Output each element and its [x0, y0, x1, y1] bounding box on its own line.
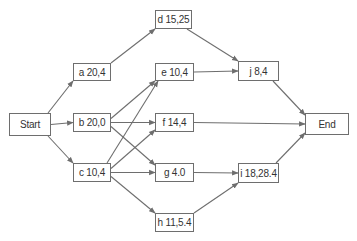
- network-diagram: Start a 20,4 b 20,0 c 10,4 d 15,25 e 10,…: [0, 0, 357, 241]
- node-c: c 10,4: [73, 163, 111, 182]
- node-label: i 18,28.4: [240, 168, 277, 179]
- node-label: j 8,4: [250, 66, 268, 77]
- node-h: h 11,5.4: [155, 213, 194, 232]
- edge-c-h: [111, 177, 155, 214]
- edge-start-c: [48, 136, 73, 163]
- node-j: j 8,4: [238, 61, 279, 81]
- node-label: c 10,4: [79, 167, 105, 178]
- node-g: g 4.0: [155, 163, 194, 182]
- node-label: d 15,25: [158, 14, 190, 25]
- node-label: h 11,5.4: [158, 217, 192, 228]
- edge-c-f: [111, 130, 155, 169]
- edge-h-i: [194, 183, 238, 213]
- node-f: f 14,4: [155, 113, 194, 132]
- node-label: End: [318, 119, 335, 130]
- node-label: a 20,4: [79, 67, 106, 78]
- node-label: g 4.0: [164, 167, 185, 178]
- edge-g-i: [194, 173, 238, 174]
- node-label: f 14,4: [163, 117, 187, 128]
- node-label: e 10,4: [161, 67, 188, 78]
- node-d: d 15,25: [155, 10, 192, 29]
- node-b: b 20,0: [73, 113, 111, 132]
- node-label: Start: [20, 119, 40, 130]
- node-a: a 20,4: [73, 63, 111, 81]
- edge-j-end: [273, 81, 305, 115]
- edge-f-end: [194, 123, 305, 125]
- node-e: e 10,4: [155, 63, 194, 81]
- edge-start-b: [51, 123, 73, 125]
- edge-start-a: [48, 81, 73, 113]
- edge-i-end: [276, 133, 305, 163]
- edge-e-j: [194, 71, 238, 72]
- node-label: b 20,0: [79, 117, 106, 128]
- node-start: Start: [9, 113, 51, 136]
- node-end: End: [305, 113, 349, 135]
- edge-b-e: [111, 81, 155, 119]
- edge-d-j: [187, 29, 238, 61]
- edge-a-d: [111, 29, 155, 63]
- node-i: i 18,28.4: [238, 163, 279, 183]
